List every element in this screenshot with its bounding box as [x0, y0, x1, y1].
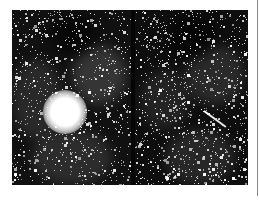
panel-left-image — [12, 10, 131, 185]
astronomy-figure — [12, 10, 248, 185]
edge-line — [257, 0, 258, 196]
star-field — [135, 10, 248, 185]
panel-right-image — [135, 10, 248, 185]
bright-star — [43, 90, 87, 134]
